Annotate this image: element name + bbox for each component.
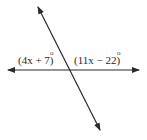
transversal-line xyxy=(38,7,100,130)
left-angle-degree-mark: o xyxy=(50,49,54,57)
left-angle-label: (4x + 7) xyxy=(18,54,54,67)
angle-diagram: (4x + 7) o (11x − 22) o xyxy=(0,0,147,140)
right-angle-degree-mark: o xyxy=(117,49,121,57)
right-angle-label: (11x − 22) xyxy=(74,54,120,67)
